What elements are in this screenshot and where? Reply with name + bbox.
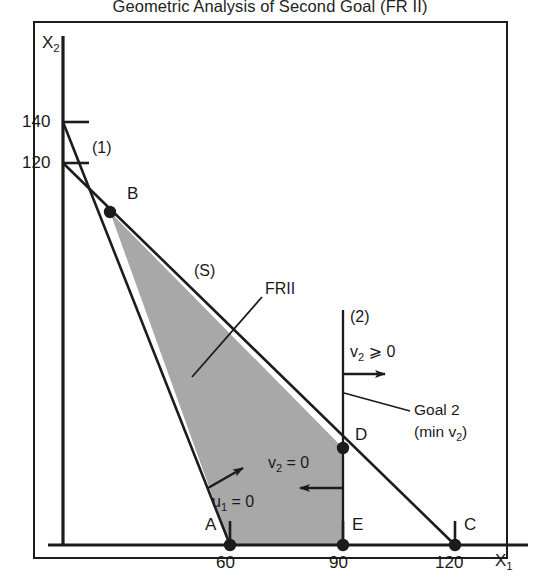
point-label-a: A: [205, 516, 216, 533]
annotation-u1-zero: u1 = 0: [212, 494, 254, 513]
constraint-label-1: (1): [92, 140, 112, 156]
annotation-v2-zero: v2 = 0: [268, 455, 309, 474]
x-tick-label-60: 60: [216, 554, 235, 571]
point-e-dot: [337, 539, 349, 551]
annotation-goal2-line1: Goal 2: [414, 402, 460, 418]
y-tick-label-120: 120: [22, 154, 50, 171]
point-label-e: E: [352, 516, 363, 533]
point-c-dot: [449, 539, 461, 551]
constraint-label-2: (2): [350, 309, 370, 325]
point-label-b: B: [127, 185, 138, 202]
point-a-dot: [224, 539, 236, 551]
region-label-frii: FRII: [265, 281, 295, 297]
supply-label-s: (S): [194, 263, 215, 279]
point-d-dot: [337, 442, 349, 454]
goal2-leader-line: [344, 393, 410, 411]
x-axis-label: X1: [495, 552, 513, 573]
annotation-goal2-line2: (min v2): [414, 424, 467, 443]
y-tick-label-140: 140: [22, 113, 50, 130]
x-tick-label-90: 90: [329, 554, 348, 571]
y-axis-label: X2: [42, 34, 60, 55]
point-label-d: D: [355, 426, 367, 443]
point-label-c: C: [464, 516, 476, 533]
point-b-dot: [104, 206, 116, 218]
annotation-v2-nonneg: v2 ⩾ 0: [350, 344, 395, 363]
x-tick-label-120: 120: [435, 554, 463, 571]
figure-container: Geometric Analysis of Second Goal (FR II…: [0, 0, 540, 583]
